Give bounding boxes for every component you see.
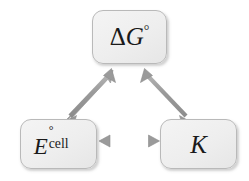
arrow-ecell-to-k [99,135,160,147]
e-symbol: E [34,134,48,159]
node-standard-cell-potential-label: E°cell [34,131,84,158]
node-equilibrium-constant-label: K [190,132,207,157]
node-delta-g-standard[interactable]: ΔG° [92,10,167,64]
node-equilibrium-constant[interactable]: K [160,119,237,169]
node-delta-g-standard-label: ΔG° [110,24,150,49]
degree-symbol: ° [144,23,150,38]
node-standard-cell-potential[interactable]: E°cell [20,119,97,169]
g-symbol: G [126,24,144,51]
cell-subscript: cell [49,137,69,151]
relationship-diagram: ΔG° E°cell K [0,0,249,181]
delta-symbol: Δ [110,24,126,51]
